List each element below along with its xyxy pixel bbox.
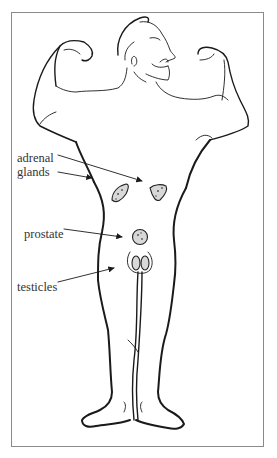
arrow-adrenal-left xyxy=(58,172,92,178)
label-testicles: testicles xyxy=(17,280,57,294)
legs-outline xyxy=(82,272,184,429)
arrow-testicles xyxy=(58,268,114,282)
adrenal-gland-right xyxy=(150,185,167,201)
arrow-prostate xyxy=(64,229,122,237)
torso-outline xyxy=(33,41,248,284)
arrow-adrenal-right xyxy=(58,155,142,181)
prostate-gland xyxy=(133,230,148,245)
label-adrenal: adrenal xyxy=(17,151,54,165)
label-glands: glands xyxy=(17,165,50,179)
label-arrows xyxy=(58,155,142,282)
testicles xyxy=(127,252,152,273)
adrenal-gland-left xyxy=(112,184,128,202)
label-prostate: prostate xyxy=(24,227,64,241)
